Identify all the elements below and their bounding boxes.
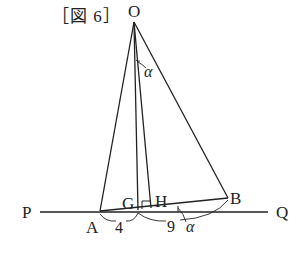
- segment-OA: [100, 22, 134, 211]
- point-label-H: H: [155, 193, 167, 210]
- point-label-P: P: [22, 204, 31, 221]
- length-label-GB: 9: [167, 219, 175, 235]
- point-label-O: O: [128, 3, 140, 20]
- point-label-Q: Q: [276, 204, 288, 221]
- point-label-A: A: [86, 219, 98, 236]
- right-angle-mark-H: [142, 201, 150, 209]
- angle-label-bottom: α: [186, 219, 194, 235]
- point-label-G: G: [122, 195, 134, 212]
- angle-label-top: α: [144, 64, 152, 80]
- point-label-B: B: [230, 190, 241, 207]
- geometry-diagram: [0, 0, 307, 257]
- length-label-AG: 4: [115, 220, 123, 236]
- figure-caption: ［図 6］: [52, 8, 121, 25]
